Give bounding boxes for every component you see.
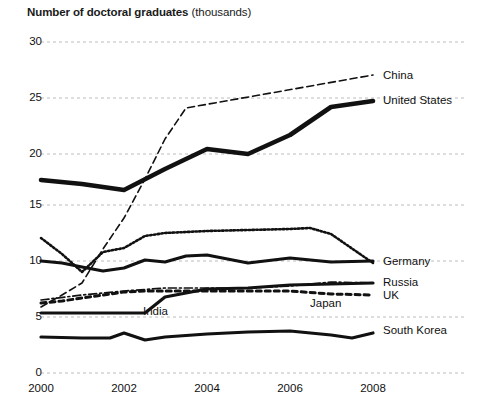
- y-axis-tick-15: 15: [16, 198, 42, 210]
- y-axis-tick-20: 20: [16, 147, 42, 159]
- chart-container: Number of doctoral graduates (thousands)…: [0, 0, 479, 416]
- series-label-india: India: [143, 305, 168, 317]
- x-axis-tick-2004: 2004: [182, 382, 232, 394]
- series-label-south-korea: South Korea: [383, 324, 447, 336]
- y-axis-tick-30: 30: [16, 35, 42, 47]
- series-label-russia: Russia: [383, 276, 418, 288]
- y-axis-tick-0: 0: [16, 366, 42, 378]
- series-line-united-states: [41, 101, 373, 190]
- series-label-china: China: [383, 69, 413, 81]
- series-line-uk: [41, 228, 373, 272]
- x-axis-tick-2000: 2000: [16, 382, 66, 394]
- x-axis-tick-2006: 2006: [265, 382, 315, 394]
- series-label-uk: UK: [383, 289, 399, 301]
- chart-plot-area: [0, 0, 479, 416]
- series-label-japan: Japan: [310, 297, 341, 309]
- y-axis-tick-5: 5: [16, 310, 42, 322]
- series-line-south-korea: [41, 331, 373, 340]
- y-axis-tick-10: 10: [16, 254, 42, 266]
- series-label-germany: Germany: [383, 255, 430, 267]
- series-label-united-states: United States: [383, 94, 452, 106]
- x-axis-tick-2002: 2002: [99, 382, 149, 394]
- y-axis-tick-25: 25: [16, 91, 42, 103]
- x-axis-tick-2008: 2008: [348, 382, 398, 394]
